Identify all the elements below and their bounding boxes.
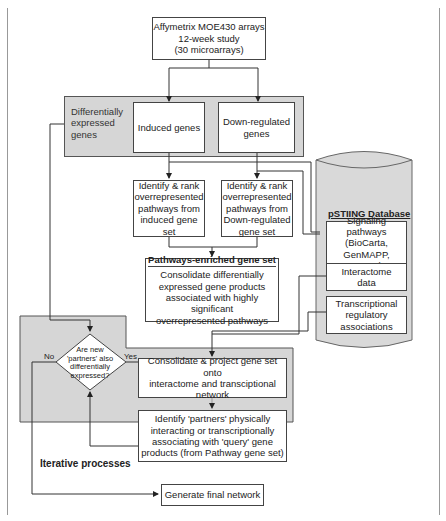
interactome-data-box: Interactome data	[326, 263, 407, 291]
partners-line-3: associating with 'query' gene	[152, 436, 273, 447]
enriched-line-2: expressed gene products	[159, 281, 266, 292]
signaling-line-1: Signaling	[347, 215, 386, 226]
source-arrays-box: Affymetrix MOE430 arrays 12-week study (…	[152, 17, 266, 60]
rank-induced-line-1: Identify & rank	[139, 180, 200, 191]
signaling-line-2: pathways	[346, 226, 386, 237]
enriched-line-3: associated with highly significant	[146, 292, 278, 315]
pathways-enriched-box: Pathways-enriched gene set Consolidate d…	[145, 258, 279, 322]
decision-yes-label: Yes	[124, 352, 137, 362]
rank-induced-line-3: pathways from	[138, 203, 200, 214]
transcriptional-line-2: regulatory	[345, 309, 387, 320]
rank-down-line-5: gene set	[239, 226, 275, 237]
source-line-2: 12-week study	[178, 33, 239, 44]
rank-down-box: Identify & rank overrepresented pathways…	[221, 180, 293, 237]
project-line-1: Consolidate & project gene set onto	[139, 355, 286, 378]
final-network-box: Generate final network	[161, 484, 264, 506]
rank-down-line-1: Identify & rank	[227, 180, 288, 191]
transcriptional-associations-box: Transcriptional regulatory associations	[326, 296, 407, 334]
interactome-line-2: data	[357, 277, 376, 288]
de-label-line-3: genes	[71, 129, 123, 140]
rank-down-line-4: Down-regulated	[223, 214, 290, 225]
rank-down-line-3: pathways from	[226, 203, 288, 214]
de-genes-label: Differentially expressed genes	[71, 106, 123, 140]
induced-genes-label: Induced genes	[138, 122, 200, 133]
rank-induced-line-2: overrepresented	[134, 191, 203, 202]
source-line-1: Affymetrix MOE430 arrays	[153, 21, 264, 32]
project-gene-set-box: Consolidate & project gene set onto inte…	[138, 358, 287, 398]
identify-partners-box: Identify 'partners' physically interacti…	[138, 410, 287, 462]
down-line-1: Down-regulated	[223, 116, 290, 127]
transcriptional-line-1: Transcriptional	[336, 298, 398, 309]
source-line-3: (30 microarrays)	[174, 44, 243, 55]
partners-line-2: interacting or transcriptionally	[151, 425, 275, 436]
decision-no-label: No	[44, 352, 54, 362]
final-network-label: Generate final network	[165, 489, 261, 500]
enriched-line-4: overrepresented pathways	[156, 315, 268, 326]
induced-genes-box: Induced genes	[133, 102, 205, 153]
downregulated-genes-box: Down-regulated genes	[218, 102, 295, 153]
decision-line-4: expressed?	[60, 372, 120, 381]
partners-line-4: products (from Pathway gene set)	[141, 447, 284, 458]
rank-down-line-2: overrepresented	[222, 191, 291, 202]
project-line-2: interactome and transciptional	[149, 378, 276, 389]
de-label-line-2: expressed	[71, 117, 123, 128]
down-line-2: genes	[244, 128, 270, 139]
project-line-3: network	[196, 389, 229, 400]
enriched-line-1: Consolidate differentially	[160, 269, 263, 280]
iterative-processes-label: Iterative processes	[40, 458, 131, 470]
enriched-title: Pathways-enriched gene set	[148, 254, 276, 267]
rank-induced-line-4: induced gene set	[134, 214, 204, 237]
partners-line-1: Identify 'partners' physically	[155, 413, 271, 424]
rank-induced-box: Identify & rank overrepresented pathways…	[133, 180, 205, 237]
de-label-line-1: Differentially	[71, 106, 123, 117]
signaling-pathways-box: Signaling pathways (BioCarta, GenMAPP, K…	[326, 221, 407, 265]
decision-diamond-text: Are new 'partners' also differentially e…	[60, 346, 120, 381]
interactome-line-1: Interactome	[341, 266, 391, 277]
transcriptional-line-3: associations	[340, 321, 392, 332]
signaling-line-3: (BioCarta,	[345, 237, 388, 248]
